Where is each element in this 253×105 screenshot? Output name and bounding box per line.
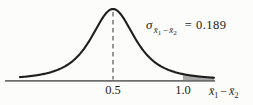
- x-tick-label-one: 1.0: [175, 83, 191, 98]
- equals-sign: =: [185, 18, 193, 32]
- std-error-annotation: σx̄1−x̄2= 0.189: [146, 17, 227, 37]
- x-tick-label-mean: 0.5: [105, 83, 121, 98]
- subscript-2: 2: [234, 91, 238, 100]
- std-error-number: 0.189: [196, 18, 227, 32]
- subscript-2: 2: [173, 29, 177, 37]
- distribution-figure: σx̄1−x̄2= 0.189 0.5 1.0 x̄1−x̄2: [0, 0, 253, 105]
- sigma-subscript: x̄1−x̄2: [154, 25, 177, 35]
- minus-sign: −: [218, 84, 229, 98]
- std-error-value: = 0.189: [185, 18, 227, 32]
- x-axis-label: x̄1−x̄2: [209, 84, 238, 100]
- sigma-symbol: σ: [146, 17, 153, 32]
- minus-sign: −: [161, 25, 169, 35]
